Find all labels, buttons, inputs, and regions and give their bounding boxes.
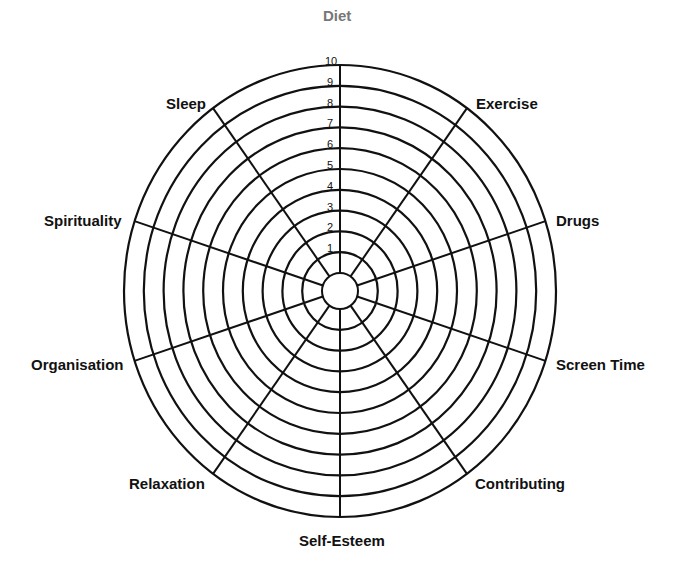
- wheel-diagram: [0, 0, 675, 573]
- category-label-relaxation: Relaxation: [129, 476, 205, 491]
- category-label-diet: Diet: [323, 8, 351, 23]
- category-label-screen-time: Screen Time: [556, 357, 645, 372]
- ring-number-2: 2: [327, 222, 333, 233]
- ring-number-1: 1: [327, 243, 333, 254]
- ring-number-9: 9: [327, 77, 333, 88]
- category-label-spirituality: Spirituality: [44, 213, 122, 228]
- ring-number-8: 8: [327, 98, 333, 109]
- category-label-exercise: Exercise: [476, 96, 538, 111]
- category-label-self-esteem: Self-Esteem: [299, 533, 385, 548]
- ring-number-4: 4: [327, 181, 333, 192]
- center-circle: [322, 273, 358, 309]
- ring-number-3: 3: [327, 202, 333, 213]
- ring-number-6: 6: [327, 139, 333, 150]
- category-label-sleep: Sleep: [166, 96, 206, 111]
- ring-number-5: 5: [327, 160, 333, 171]
- category-label-drugs: Drugs: [556, 213, 599, 228]
- ring-number-7: 7: [327, 118, 333, 129]
- category-label-organisation: Organisation: [31, 357, 124, 372]
- category-label-contributing: Contributing: [475, 476, 565, 491]
- ring-number-10: 10: [325, 56, 337, 67]
